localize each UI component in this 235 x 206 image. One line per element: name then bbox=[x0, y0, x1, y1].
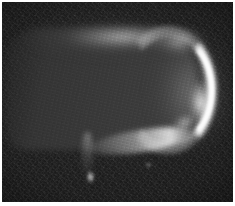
plume-knot bbox=[86, 170, 95, 184]
image-viewport bbox=[0, 0, 235, 206]
photographic-plate bbox=[2, 2, 233, 202]
faint-speck bbox=[145, 162, 152, 168]
arc-shoulder-glow bbox=[152, 26, 208, 56]
